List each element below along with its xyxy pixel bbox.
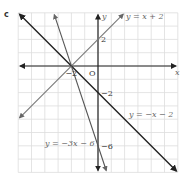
x-axis-label: x (175, 68, 180, 77)
x-tick-label: −2 (65, 69, 77, 78)
origin-label: O (89, 69, 96, 78)
graph: yxO−22−2−6y = x + 2y = −x − 2y = −3x − 6 (0, 0, 186, 180)
y-axis-label: y (101, 12, 107, 21)
y-tick-label-2: −6 (101, 142, 113, 151)
labels: yxO−22−2−6y = x + 2y = −x − 2y = −3x − 6 (44, 12, 180, 151)
y-tick-label-0: 2 (101, 35, 106, 44)
label-y-eq-x-plus-2: y = x + 2 (125, 12, 164, 21)
y-tick-label-1: −2 (101, 89, 113, 98)
label-y-eq-neg-3x-minus-6: y = −3x − 6 (44, 139, 95, 148)
label-y-eq-neg-x-minus-2: y = −x − 2 (128, 110, 173, 119)
